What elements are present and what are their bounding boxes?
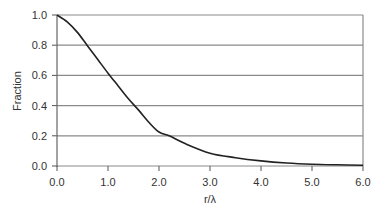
line-chart: 0.00.20.40.60.81.0 0.01.02.03.04.05.06.0… (0, 0, 388, 212)
x-tick-label: 5.0 (304, 176, 319, 188)
axes (52, 15, 363, 171)
x-tick-label: 1.0 (100, 176, 115, 188)
grid-lines (57, 15, 363, 166)
y-tick-label: 0.2 (32, 130, 47, 142)
x-tick-labels: 0.01.02.03.04.05.06.0 (49, 176, 370, 188)
x-tick-label: 3.0 (202, 176, 217, 188)
y-tick-label: 0.8 (32, 39, 47, 51)
y-tick-label: 1.0 (32, 9, 47, 21)
y-tick-label: 0.6 (32, 69, 47, 81)
x-tick-label: 6.0 (355, 176, 370, 188)
y-tick-label: 0.0 (32, 160, 47, 172)
x-tick-label: 4.0 (253, 176, 268, 188)
data-line (57, 15, 363, 165)
y-axis-title: Fraction (11, 71, 23, 111)
x-tick-label: 0.0 (49, 176, 64, 188)
x-tick-label: 2.0 (151, 176, 166, 188)
y-tick-labels: 0.00.20.40.60.81.0 (32, 9, 47, 172)
y-tick-label: 0.4 (32, 100, 47, 112)
x-axis-title: r/λ (204, 193, 217, 205)
